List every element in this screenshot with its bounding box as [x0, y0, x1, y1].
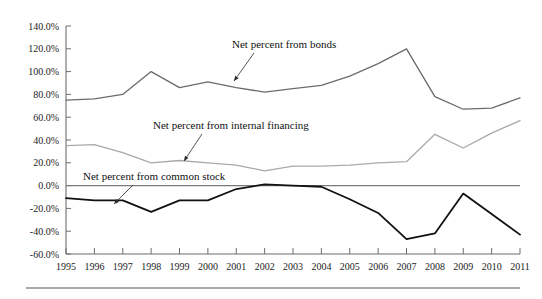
series-annotation-label: Net percent from bonds — [232, 38, 336, 50]
y-tick-label: 80.0% — [33, 89, 59, 100]
x-tick-label: 1999 — [170, 261, 190, 272]
series-annotations: Net percent from bondsNet percent from i… — [83, 38, 336, 204]
y-tick-label: 40.0% — [33, 135, 59, 146]
y-tick-label: 140.0% — [28, 21, 59, 32]
x-tick-label: 2010 — [482, 261, 502, 272]
x-tick-label: 2003 — [283, 261, 303, 272]
series-annotation-label: Net percent from internal financing — [153, 119, 309, 131]
y-axis-tick-marks — [66, 26, 71, 254]
annotation-arrowhead — [184, 156, 189, 161]
y-tick-label: 100.0% — [28, 66, 59, 77]
y-tick-label: -60.0% — [30, 249, 59, 260]
x-tick-label: 2006 — [368, 261, 388, 272]
y-tick-label: -40.0% — [30, 226, 59, 237]
x-tick-label: 2000 — [198, 261, 218, 272]
x-tick-label: 1996 — [84, 261, 104, 272]
x-axis-tick-marks — [66, 248, 520, 254]
chart-figure: 140.0%120.0%100.0%80.0%60.0%40.0%20.0%0.… — [0, 0, 542, 299]
y-tick-label: 120.0% — [28, 43, 59, 54]
series-line — [66, 49, 520, 109]
series-line — [66, 184, 520, 239]
y-tick-label: 20.0% — [33, 157, 59, 168]
y-tick-label: -20.0% — [30, 203, 59, 214]
line-chart-canvas: 140.0%120.0%100.0%80.0%60.0%40.0%20.0%0.… — [0, 0, 542, 299]
data-series-group — [66, 49, 520, 239]
y-tick-label: 60.0% — [33, 112, 59, 123]
x-tick-label: 1995 — [56, 261, 76, 272]
y-axis-tick-labels: 140.0%120.0%100.0%80.0%60.0%40.0%20.0%0.… — [28, 21, 59, 260]
x-tick-label: 2004 — [311, 261, 331, 272]
x-tick-label: 1997 — [113, 261, 133, 272]
x-tick-label: 2008 — [425, 261, 445, 272]
x-axis-tick-labels: 1995199619971998199920002001200220032004… — [56, 261, 530, 272]
x-tick-label: 2007 — [397, 261, 417, 272]
y-tick-label: 0.0% — [38, 180, 59, 191]
x-tick-label: 2005 — [340, 261, 360, 272]
x-tick-label: 2009 — [453, 261, 473, 272]
annotation-arrowhead — [234, 76, 239, 81]
annotation-leader-line — [234, 53, 254, 81]
x-tick-label: 2011 — [510, 261, 530, 272]
x-tick-label: 2001 — [226, 261, 246, 272]
x-tick-label: 1998 — [141, 261, 161, 272]
series-annotation-label: Net percent from common stock — [83, 170, 226, 182]
x-tick-label: 2002 — [255, 261, 275, 272]
